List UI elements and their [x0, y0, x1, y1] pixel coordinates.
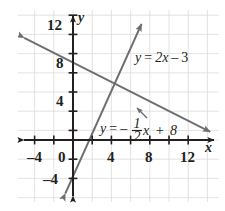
- steep-label-term: 2x: [155, 50, 169, 65]
- steep-label-three: 3: [181, 50, 188, 65]
- y-axis-label: y: [76, 10, 85, 25]
- steep-label-y: y: [133, 50, 142, 65]
- y-tick-label-12: 12: [47, 17, 62, 33]
- svg-text:y=–: y=–: [98, 121, 128, 136]
- x-axis-label: x: [204, 140, 212, 155]
- shallow-label-eight: 8: [170, 123, 177, 138]
- shallow-label-fraction-denominator: 2: [134, 129, 141, 144]
- y-tick-label-8: 8: [56, 55, 64, 71]
- shallow-label-equals: =: [109, 121, 117, 136]
- y-tick-label--4: –4: [42, 171, 59, 187]
- steep-label-equals: =: [144, 50, 152, 65]
- x-tick-label-8: 8: [145, 149, 153, 165]
- shallow-label-plus: +: [155, 123, 164, 138]
- x-tick-label-12: 12: [180, 149, 195, 165]
- y-tick-label-4: 4: [56, 93, 64, 109]
- shallow-label-minus: –: [119, 121, 128, 136]
- x-tick-label-0: 0: [58, 149, 66, 165]
- x-tick-label-4: 4: [107, 149, 115, 165]
- coordinate-graph-figure: y x –4 0 4 8 12 12 8 4 –4 y=2x–3 y=– 1 2…: [0, 0, 225, 211]
- shallow-label-y: y: [98, 121, 107, 136]
- shallow-label-variable: x: [142, 123, 150, 138]
- x-tick-label--4: –4: [26, 149, 43, 165]
- steep-label-minus: –: [170, 50, 179, 65]
- graph-canvas: y x –4 0 4 8 12 12 8 4 –4 y=2x–3 y=– 1 2…: [0, 0, 225, 211]
